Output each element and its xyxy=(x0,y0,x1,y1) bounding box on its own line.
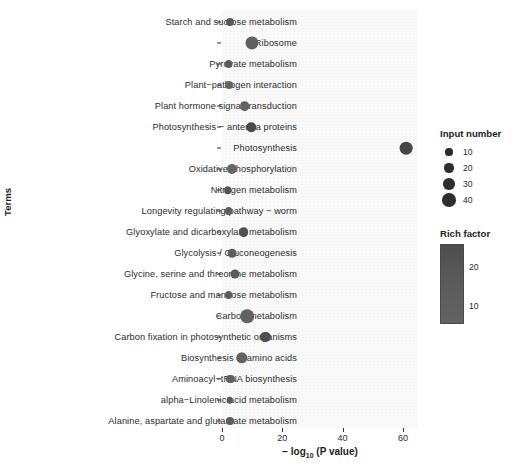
y-axis-tick-mark xyxy=(217,274,221,275)
y-axis-tick-label: Plant−pathogen interaction xyxy=(185,80,297,90)
y-axis-tick-mark xyxy=(217,64,221,65)
y-axis-tick-label: Fructose and mannose metabolism xyxy=(150,290,297,300)
y-axis-tick-mark xyxy=(217,169,221,170)
y-axis-tick-mark xyxy=(217,148,221,149)
y-axis-title: Terms xyxy=(2,188,13,216)
legend-rich-factor-title: Rich factor xyxy=(440,228,520,239)
data-point[interactable] xyxy=(226,18,234,26)
y-axis-tick-mark xyxy=(217,337,221,338)
data-point[interactable] xyxy=(241,309,255,323)
x-axis-title-prefix: − log xyxy=(282,446,306,457)
x-axis-title-subscript: 10 xyxy=(306,452,314,459)
y-axis-tick-mark xyxy=(217,232,221,233)
x-axis-tick-mark xyxy=(282,428,283,432)
data-point[interactable] xyxy=(225,207,233,215)
x-axis-title: − log10 (P value) xyxy=(222,446,418,459)
y-axis-tick-mark xyxy=(217,253,221,254)
x-axis-tick-label: 0 xyxy=(219,433,224,443)
legend-dot-icon xyxy=(444,163,453,172)
data-point[interactable] xyxy=(226,417,234,425)
legend-dot-icon xyxy=(442,193,456,207)
plot-panel xyxy=(222,10,418,428)
y-axis-tick-label: Aminoacyl−tRNA biosynthesis xyxy=(172,374,297,384)
data-point[interactable] xyxy=(240,101,250,111)
y-axis-tick-mark xyxy=(217,358,221,359)
x-axis-title-suffix: (P value) xyxy=(314,446,358,457)
data-point[interactable] xyxy=(239,227,249,237)
legend-dot-swatch xyxy=(440,163,458,172)
data-point[interactable] xyxy=(226,397,233,404)
data-point[interactable] xyxy=(400,142,413,155)
y-axis-tick-label: Ribosome xyxy=(255,38,297,48)
y-axis-tick-mark xyxy=(217,190,221,191)
data-point[interactable] xyxy=(228,249,237,258)
data-point[interactable] xyxy=(225,60,233,68)
rich-factor-colorbar xyxy=(440,244,464,324)
y-axis-tick-mark xyxy=(217,316,221,317)
legend-input-number-entry: 40 xyxy=(440,192,520,208)
y-axis-tick-mark xyxy=(217,43,221,44)
y-axis-tick-label: Carbon metabolism xyxy=(216,311,297,321)
legend-input-number-entries: 10203040 xyxy=(440,144,520,208)
x-axis-tick-label: 20 xyxy=(277,433,287,443)
kegg-enrichment-dot-plot: Starch and sucrose metabolismRibosomePyr… xyxy=(0,0,523,468)
legend-input-number-entry: 20 xyxy=(440,160,520,176)
colorbar-tick-label: 20 xyxy=(469,262,479,272)
y-axis-tick-label: Glyoxylate and dicarboxylate metabolism xyxy=(126,227,297,237)
legend-input-number-entry: 10 xyxy=(440,144,520,160)
legend-input-number-title: Input number xyxy=(440,128,520,139)
legend-dot-swatch xyxy=(440,193,458,207)
legend-input-number-label: 10 xyxy=(463,147,473,157)
x-axis-tick-label: 40 xyxy=(338,433,348,443)
y-axis-tick-label: Oxidative phosphorylation xyxy=(189,164,297,174)
data-point[interactable] xyxy=(224,186,232,194)
data-point[interactable] xyxy=(225,291,233,299)
x-axis-tick-mark xyxy=(222,428,223,432)
legend-dot-swatch xyxy=(440,148,458,155)
y-axis-tick-mark xyxy=(217,295,221,296)
y-axis-tick-mark xyxy=(217,379,221,380)
y-axis-tick-mark xyxy=(217,127,221,128)
y-axis-tick-mark xyxy=(217,85,221,86)
legend-dot-swatch xyxy=(440,178,458,189)
y-axis-tick-mark xyxy=(217,211,221,212)
x-axis-tick-mark xyxy=(343,428,344,432)
legend-rich-factor: Rich factor 2010 xyxy=(440,228,520,322)
legend-dot-icon xyxy=(445,148,452,155)
legend-input-number-label: 20 xyxy=(463,163,473,173)
y-axis-tick-mark xyxy=(217,106,221,107)
y-axis-tick-label: Photosynthesis xyxy=(233,143,297,153)
legend-dot-icon xyxy=(443,178,454,189)
y-axis-tick-label: Alanine, aspartate and glutamate metabol… xyxy=(108,416,297,426)
legend-input-number-label: 40 xyxy=(463,195,473,205)
legend-input-number: Input number 10203040 xyxy=(440,128,520,208)
y-axis-tick-label: Glycine, serine and threonine metabolism xyxy=(124,269,297,279)
x-axis-tick-mark xyxy=(403,428,404,432)
x-axis-tick-label: 60 xyxy=(398,433,408,443)
legend-input-number-label: 30 xyxy=(463,179,473,189)
plot-background xyxy=(222,10,418,428)
legend-input-number-entry: 30 xyxy=(440,176,520,192)
data-point[interactable] xyxy=(225,81,233,89)
y-axis-tick-mark xyxy=(217,400,221,401)
y-axis-tick-mark xyxy=(217,421,221,422)
colorbar-tick-label: 10 xyxy=(469,301,479,311)
y-axis-tick-label: Photosynthesis − antenna proteins xyxy=(152,122,297,132)
y-axis-tick-label: Plant hormone signal transduction xyxy=(155,101,297,111)
data-point[interactable] xyxy=(246,122,256,132)
y-axis-tick-mark xyxy=(217,22,221,23)
colorbar-wrap: 2010 xyxy=(440,244,516,322)
y-axis-tick-label: Pyruvate metabolism xyxy=(209,59,297,69)
